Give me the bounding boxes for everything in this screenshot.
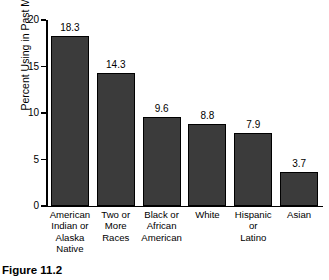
x-axis-category-label: Two orMoreRaces (93, 209, 139, 243)
bar (97, 73, 135, 206)
y-axis-tick-label: 0 (18, 201, 39, 211)
bar-value-label: 3.7 (274, 158, 324, 169)
x-axis-category-label: White (185, 209, 231, 220)
y-axis-tick-label: 10 (18, 108, 39, 118)
bar (188, 124, 226, 206)
y-axis-tick (41, 112, 46, 114)
x-axis-category-label: HispanicorLatino (230, 209, 276, 243)
x-axis-category-label: Black orAfricanAmerican (139, 209, 185, 243)
y-axis-tick (41, 19, 46, 21)
bar-value-label: 8.8 (182, 110, 232, 121)
y-axis-tick (41, 159, 46, 161)
category-label-line: Asian (276, 209, 322, 220)
category-label-line: Latino (230, 232, 276, 243)
category-label-line: Hispanic (230, 209, 276, 220)
category-label-line: African (139, 220, 185, 231)
bar-value-label: 18.3 (45, 22, 95, 33)
bar (234, 133, 272, 206)
category-label-line: American (47, 209, 93, 220)
category-label-line: More (93, 220, 139, 231)
bar-value-label: 9.6 (137, 103, 187, 114)
bar (280, 172, 318, 206)
category-label-line: Black or (139, 209, 185, 220)
y-axis-tick-label: 5 (18, 155, 39, 165)
bar-value-label: 14.3 (91, 59, 141, 70)
bar (51, 36, 89, 206)
x-axis-category-label: Asian (276, 209, 322, 220)
y-axis-tick (41, 66, 46, 68)
category-label-line: Races (93, 232, 139, 243)
bar (143, 117, 181, 206)
category-label-line: American (139, 232, 185, 243)
y-axis-tick-label: 20 (18, 15, 39, 25)
y-axis-tick-label: 15 (18, 62, 39, 72)
category-label-line: Indian or (47, 220, 93, 231)
category-label-line: Two or (93, 209, 139, 220)
category-label-line: Alaska (47, 232, 93, 243)
category-label-line: White (185, 209, 231, 220)
bar-value-label: 7.9 (228, 119, 278, 130)
category-label-line: Native (47, 243, 93, 254)
x-axis-category-label: AmericanIndian orAlaskaNative (47, 209, 93, 255)
category-label-line: or (230, 220, 276, 231)
figure-caption: Figure 11.2 (2, 263, 62, 277)
figure-container: Percent Using in Past Month 05101520 18.… (0, 0, 329, 280)
